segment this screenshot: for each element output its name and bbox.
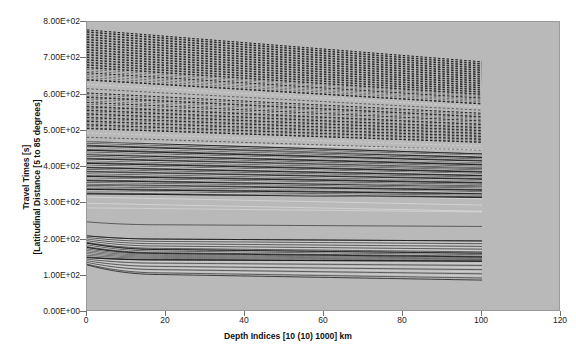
x-tick-mark	[244, 311, 245, 316]
x-tick-label: 60	[303, 315, 343, 325]
x-tick-label: 80	[382, 315, 422, 325]
plot-area	[86, 21, 560, 311]
x-axis-title: Depth Indices [10 (10) 1000] km	[0, 331, 576, 341]
x-tick-label: 20	[145, 315, 185, 325]
y-tick-label: 4.00E+02	[6, 161, 80, 171]
x-tick-label: 100	[461, 315, 501, 325]
y-tick-label: 5.00E+02	[6, 125, 80, 135]
x-tick-mark	[481, 311, 482, 316]
y-axis-title-line2: [Latitudinal Distance [5 to 85 degrees]	[32, 62, 43, 292]
traveltime-curves	[87, 22, 560, 311]
y-tick-label: 2.00E+02	[6, 234, 80, 244]
y-tick-label: 6.00E+02	[6, 89, 80, 99]
y-axis-title: Travel Times [s] [Latitudinal Distance […	[21, 62, 43, 292]
x-tick-mark	[402, 311, 403, 316]
figure: 0.00E+001.00E+022.00E+023.00E+024.00E+02…	[0, 0, 576, 355]
x-tick-mark	[560, 311, 561, 316]
y-tick-label: 3.00E+02	[6, 197, 80, 207]
y-tick-label: 1.00E+02	[6, 270, 80, 280]
x-tick-mark	[86, 311, 87, 316]
y-axis-title-line1: Travel Times [s]	[21, 62, 32, 292]
y-tick-label: 7.00E+02	[6, 52, 80, 62]
x-tick-label: 40	[224, 315, 264, 325]
x-tick-label: 120	[540, 315, 576, 325]
x-tick-mark	[165, 311, 166, 316]
x-tick-label: 0	[66, 315, 106, 325]
y-tick-label: 8.00E+02	[6, 16, 80, 26]
x-tick-mark	[323, 311, 324, 316]
